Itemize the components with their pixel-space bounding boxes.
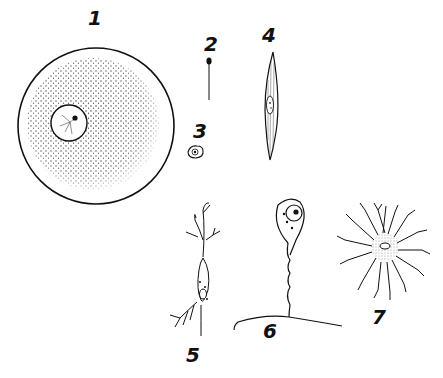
cell-types-figure: 1 2 3 4 5 6 7 [0,0,443,378]
cell-2-sperm [206,57,211,100]
cell-5-neuron [170,203,220,336]
label-7: 7 [372,307,386,327]
cell-4-spindle [265,52,278,160]
cell-7-astrocyte [337,203,430,300]
label-2: 2 [204,34,218,54]
label-1: 1 [88,8,102,28]
label-6: 6 [263,321,277,341]
label-3: 3 [193,121,207,141]
label-4: 4 [262,25,276,45]
cell-3-small [188,146,203,158]
label-5: 5 [186,345,200,365]
cell-1-egg [18,48,174,204]
cell-6-neuron [234,199,342,330]
